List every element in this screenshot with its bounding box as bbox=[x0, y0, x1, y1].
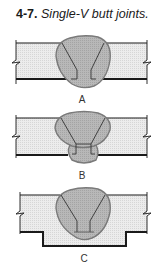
diagram-label-b: B bbox=[72, 170, 92, 181]
diagram-c bbox=[16, 188, 151, 246]
diagram-label-c: C bbox=[74, 253, 94, 264]
diagram-label-a: A bbox=[72, 94, 92, 105]
diagram-a bbox=[12, 36, 151, 88]
diagram-b bbox=[12, 112, 151, 164]
weld-joint-diagrams bbox=[0, 0, 168, 269]
